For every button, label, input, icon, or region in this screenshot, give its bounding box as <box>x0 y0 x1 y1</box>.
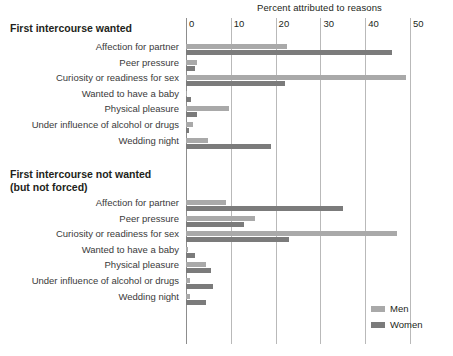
bar-women <box>186 66 195 71</box>
gridline-40 <box>365 18 366 344</box>
bar-men <box>186 294 190 299</box>
x-tick-label-30: 30 <box>323 18 334 29</box>
bar-women <box>186 50 392 55</box>
panel-title-first-intercourse-wanted: First intercourse wanted <box>10 22 132 35</box>
bar-men <box>186 91 187 96</box>
bar-men <box>186 75 406 80</box>
category-label: Under influence of alcohol or drugs <box>32 120 179 130</box>
bar-women <box>186 112 197 117</box>
bar-men <box>186 247 188 252</box>
gridline-10 <box>231 18 232 344</box>
bar-women <box>186 97 191 102</box>
bar-men <box>186 200 226 205</box>
bar-women <box>186 222 244 227</box>
legend-label-men: Men <box>390 303 408 314</box>
bar-men <box>186 138 208 143</box>
category-label: Wanted to have a baby <box>82 89 179 99</box>
bar-men <box>186 216 255 221</box>
category-label: Affection for partner <box>96 198 179 208</box>
category-label: Wedding night <box>118 136 179 146</box>
bar-women <box>186 284 213 289</box>
category-label: Under influence of alcohol or drugs <box>32 276 179 286</box>
legend-item-men: Men <box>371 303 408 314</box>
bar-men <box>186 106 229 111</box>
bar-women <box>186 237 289 242</box>
bar-men <box>186 262 206 267</box>
category-label: Curiosity or readiness for sex <box>56 73 179 83</box>
legend-swatch-women-icon <box>371 322 385 328</box>
category-label: Physical pleasure <box>105 260 179 270</box>
x-tick-label-20: 20 <box>279 18 290 29</box>
category-label: Physical pleasure <box>105 104 179 114</box>
category-label: Wedding night <box>118 292 179 302</box>
bar-men <box>186 122 193 127</box>
bar-women <box>186 144 271 149</box>
x-tick-label-50: 50 <box>413 18 424 29</box>
gridline-30 <box>320 18 321 344</box>
gridline-20 <box>276 18 277 344</box>
bar-men <box>186 278 190 283</box>
category-label: Affection for partner <box>96 42 179 52</box>
bar-women <box>186 128 189 133</box>
bar-men <box>186 44 287 49</box>
panel-title-first-intercourse-not-wanted: First intercourse not wanted (but not fo… <box>10 168 151 193</box>
bar-women <box>186 268 211 273</box>
category-label: Peer pressure <box>119 214 179 224</box>
chart-title: Percent attributed to reasons <box>186 2 453 13</box>
bar-women <box>186 81 285 86</box>
x-tick-label-10: 10 <box>234 18 245 29</box>
bar-men <box>186 60 197 65</box>
bar-women <box>186 206 343 211</box>
category-label: Peer pressure <box>119 58 179 68</box>
bar-women <box>186 300 206 305</box>
legend-swatch-men-icon <box>371 306 385 312</box>
x-tick-label-0: 0 <box>189 18 194 29</box>
gridline-50 <box>410 18 411 344</box>
chart-root: Percent attributed to reasons 0102030405… <box>0 0 453 356</box>
bar-men <box>186 231 397 236</box>
category-label: Curiosity or readiness for sex <box>56 229 179 239</box>
legend-label-women: Women <box>390 319 423 330</box>
category-label: Wanted to have a baby <box>82 245 179 255</box>
x-tick-label-40: 40 <box>368 18 379 29</box>
legend-item-women: Women <box>371 319 423 330</box>
bar-women <box>186 253 195 258</box>
